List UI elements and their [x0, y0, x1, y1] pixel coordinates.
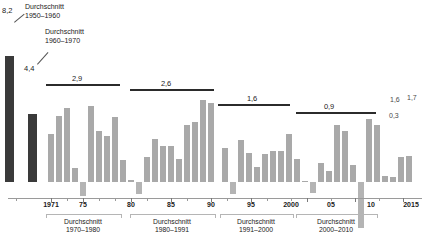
bar-avg-1960-1970: [28, 114, 37, 182]
bar-year: [88, 106, 94, 182]
bar-year: [96, 131, 102, 182]
axis-label-90: 90: [207, 201, 215, 208]
axis-label-2000: 2000: [283, 201, 299, 208]
bar-year: [72, 168, 78, 182]
group-label-line1: Durchschnitt: [153, 218, 191, 226]
avg-line-2000-2010: [296, 112, 376, 114]
group-label-1970-1980: Durchschnitt 1970–1980: [64, 218, 102, 235]
bar-year: [152, 139, 158, 182]
axis-tick: [67, 198, 68, 201]
bar-year: [350, 165, 356, 182]
group-label-1980-1991: Durchschnitt 1980–1991: [153, 218, 191, 235]
bar-year: [176, 159, 182, 182]
bar-year: [200, 100, 206, 182]
group-label-2000-2010: Durchschnitt 2000–2010: [317, 218, 355, 235]
bar-year: [56, 116, 62, 182]
bar-year: [294, 159, 300, 182]
group-label-line1: Durchschnitt: [317, 218, 355, 226]
axis-tick: [307, 198, 308, 202]
bar-year: [208, 103, 214, 182]
bar-year-negative: [80, 182, 86, 196]
avg-label-1991-2000: 1,6: [247, 94, 257, 103]
callout-1950-1960-line1: Durchschnitt: [25, 3, 64, 12]
bar-avg-1950-1960: [5, 56, 14, 182]
avg-line-1980-1991: [130, 89, 214, 91]
group-label-line2: 1991–2000: [237, 226, 275, 234]
bar-year: [184, 125, 190, 182]
bar-year-negative: [136, 182, 142, 194]
bar-year: [278, 151, 284, 182]
bar-year: [112, 117, 118, 182]
callout-1960-1970-line2: 1960–1970: [45, 37, 84, 46]
callout-1960-1970: Durchschnitt 1960–1970: [45, 28, 84, 45]
bar-year-negative: [358, 182, 364, 228]
bar-year: [238, 140, 244, 182]
axis-tick: [227, 198, 228, 201]
group-label-line2: 1980–1991: [153, 226, 191, 234]
axis-tick: [115, 198, 116, 201]
axis-label-95: 95: [247, 201, 255, 208]
bar-year: [270, 151, 276, 182]
bar-year: [326, 171, 332, 182]
axis-label-05: 05: [327, 201, 335, 208]
axis-label-75: 75: [79, 201, 87, 208]
axis-tick: [187, 198, 188, 201]
bar-year: [366, 119, 372, 182]
bar-year: [262, 154, 268, 182]
bar-year: [192, 122, 198, 182]
avg-line-1970-1980: [46, 84, 120, 86]
bar-year: [64, 108, 70, 182]
bar-year: [104, 136, 110, 182]
bar-year: [334, 125, 340, 182]
axis-label-10: 10: [367, 201, 375, 208]
x-axis: [8, 198, 422, 199]
axis-label-2015: 2015: [403, 201, 419, 208]
bar-year: [144, 157, 150, 182]
group-label-line2: 1970–1980: [64, 226, 102, 234]
group-label-line1: Durchschnitt: [64, 218, 102, 226]
bar-year: [128, 180, 134, 182]
bar-year: [342, 131, 348, 182]
bar-year: [48, 134, 54, 182]
chart-root: 2,9 2,6 1,6 0,9 8,2 4,4 0,3 1,6 1,7 Durc…: [0, 0, 430, 244]
axis-tick: [16, 198, 17, 201]
axis-label-1971: 1971: [43, 201, 59, 208]
avg-line-1991-2000: [218, 104, 290, 106]
end-label-2013: 0,3: [389, 112, 399, 119]
axis-tick: [267, 198, 268, 201]
avg-label-1970-1980: 2,9: [72, 74, 82, 83]
plot-area: 2,9 2,6 1,6 0,9 8,2 4,4 0,3 1,6 1,7 Durc…: [0, 0, 430, 182]
end-label-2015: 1,7: [407, 94, 417, 101]
bar-year: [286, 134, 292, 182]
callout-1950-1960-line2: 1950–1960: [25, 12, 64, 21]
bar-year: [302, 181, 308, 182]
bar-year: [254, 167, 260, 182]
peak-label-1960-1970: 4,4: [24, 64, 34, 73]
bar-year: [120, 160, 126, 182]
bar-year: [160, 146, 166, 182]
bar-year: [246, 153, 252, 182]
bar-year: [222, 148, 228, 182]
axis-tick: [355, 198, 356, 202]
bar-year: [168, 146, 174, 182]
bar-year: [382, 176, 388, 182]
axis-tick: [379, 198, 380, 201]
peak-label-1950-1960: 8,2: [2, 6, 12, 15]
bar-year: [390, 177, 396, 182]
bar-year-negative: [310, 182, 316, 193]
avg-label-1980-1991: 2,6: [161, 79, 171, 88]
bar-year-negative: [230, 182, 236, 194]
callout-1950-1960-leader: [14, 14, 25, 23]
axis-label-85: 85: [167, 201, 175, 208]
axis-label-80: 80: [127, 201, 135, 208]
bar-year: [374, 125, 380, 182]
group-label-line1: Durchschnitt: [237, 218, 275, 226]
callout-1960-1970-line1: Durchschnitt: [45, 28, 84, 37]
group-label-line2: 2000–2010: [317, 226, 355, 234]
bar-year: [398, 157, 404, 182]
axis-tick: [99, 198, 100, 201]
bar-year: [406, 156, 412, 182]
avg-label-2000-2010: 0,9: [324, 102, 334, 111]
callout-1950-1960: Durchschnitt 1950–1960: [25, 3, 64, 20]
end-label-2014: 1,6: [390, 96, 400, 103]
